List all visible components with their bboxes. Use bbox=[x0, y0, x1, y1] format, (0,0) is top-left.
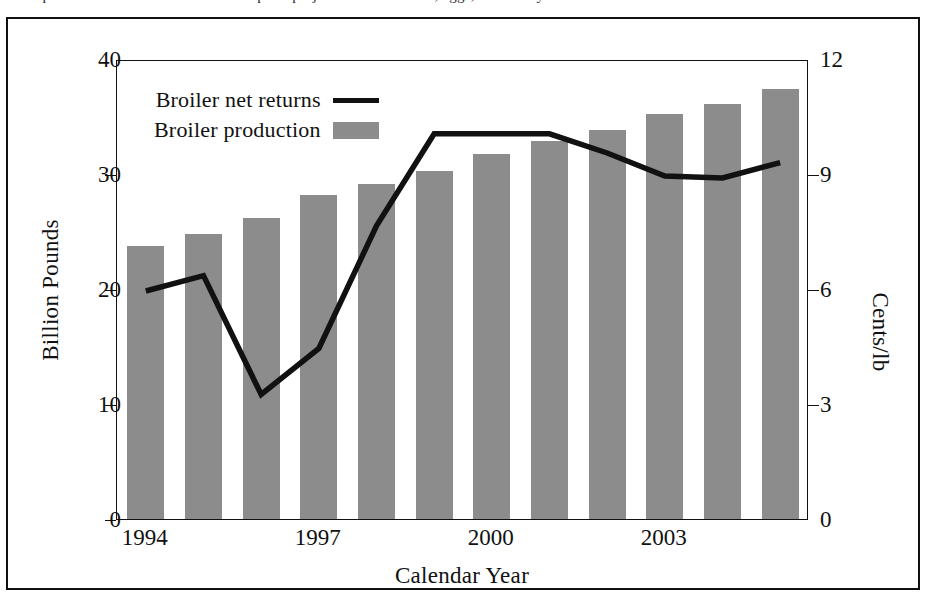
left-tick-mark-0 bbox=[105, 520, 116, 521]
bottom-axis-title: Calendar Year bbox=[116, 563, 808, 589]
legend-line-swatch-icon bbox=[333, 98, 379, 103]
legend-bar-swatch-icon bbox=[333, 122, 379, 139]
right-tick-label-0: 0 bbox=[820, 508, 880, 531]
right-axis-title: Cents/lb bbox=[867, 252, 893, 412]
x-tick-label-2003: 2003 bbox=[619, 525, 709, 551]
left-tick-label-40: 40 bbox=[61, 48, 121, 71]
right-tick-mark-3 bbox=[808, 405, 819, 406]
x-tick-label-2000: 2000 bbox=[446, 525, 536, 551]
right-tick-label-12: 12 bbox=[820, 48, 880, 71]
legend-item-net-returns: Broiler net returns bbox=[154, 85, 379, 115]
legend-item-production: Broiler production bbox=[154, 115, 379, 145]
left-tick-mark-20 bbox=[105, 290, 116, 291]
x-tick-label-1997: 1997 bbox=[273, 525, 363, 551]
right-tick-label-9: 9 bbox=[820, 163, 880, 186]
chart-legend: Broiler net returns Broiler production bbox=[154, 85, 379, 145]
legend-label-net-returns: Broiler net returns bbox=[156, 87, 321, 113]
net-returns-polyline bbox=[146, 134, 780, 395]
legend-label-production: Broiler production bbox=[154, 117, 321, 143]
left-axis-title: Billion Pounds bbox=[38, 190, 64, 390]
right-tick-mark-9 bbox=[808, 175, 819, 176]
page-top-text-fragment: anticipated to rise. This section review… bbox=[0, 0, 930, 14]
left-tick-mark-30 bbox=[105, 175, 116, 176]
left-tick-mark-10 bbox=[105, 405, 116, 406]
chart-area: 010203040 036912 1994199720002003 Billio… bbox=[8, 19, 922, 588]
page-top-text: anticipated to rise. This section review… bbox=[8, 0, 554, 4]
figure-frame: 010203040 036912 1994199720002003 Billio… bbox=[6, 17, 920, 590]
right-tick-mark-6 bbox=[808, 290, 819, 291]
x-tick-label-1994: 1994 bbox=[100, 525, 190, 551]
